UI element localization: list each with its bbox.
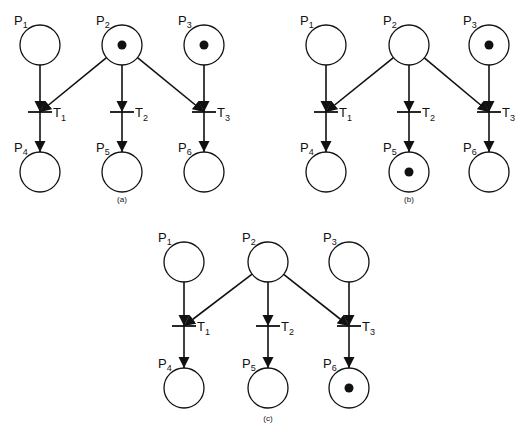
transition-label: T2 <box>281 319 294 337</box>
place-label: P1 <box>300 13 314 30</box>
place-label: P3 <box>463 13 477 30</box>
petri-net-diagram: T1T2T3P1P2P3P4P5P6(a)T1T2T3P1P2P3P4P5P6(… <box>0 0 527 431</box>
place-label: P5 <box>242 356 256 373</box>
transition-label: T3 <box>502 105 515 123</box>
panel-a: T1T2T3P1P2P3P4P5P6(a) <box>14 13 230 204</box>
place-p2 <box>389 25 429 65</box>
transition-label: T3 <box>362 319 375 337</box>
place-label: P6 <box>463 140 477 157</box>
place-p6 <box>184 152 224 192</box>
place-p6 <box>469 152 509 192</box>
panel-b: T1T2T3P1P2P3P4P5P6(b) <box>300 13 515 204</box>
place-label: P3 <box>178 13 192 30</box>
place-p1 <box>306 25 346 65</box>
arc-p2-t3 <box>137 58 204 112</box>
place-label: P1 <box>158 230 172 247</box>
place-label: P5 <box>96 140 110 157</box>
arc-p2-t3 <box>424 58 489 112</box>
transition-label: T1 <box>53 105 66 123</box>
place-label: P4 <box>158 356 172 373</box>
place-p1 <box>20 25 60 65</box>
token-icon <box>118 41 127 50</box>
panel-caption: (c) <box>263 414 273 423</box>
transition-label: T2 <box>422 105 435 123</box>
place-label: P2 <box>96 13 110 30</box>
token-icon <box>200 41 209 50</box>
arc-p2-t3 <box>284 274 349 326</box>
place-p2 <box>248 242 288 282</box>
token-icon <box>405 168 414 177</box>
place-p3 <box>329 242 369 282</box>
panel-caption: (b) <box>404 195 414 204</box>
place-label: P2 <box>242 230 256 247</box>
place-p5 <box>248 368 288 408</box>
panel-c: T1T2T3P1P2P3P4P5P6(c) <box>158 230 375 423</box>
transition-label: T1 <box>339 105 352 123</box>
place-p4 <box>306 152 346 192</box>
transition-label: T2 <box>135 105 148 123</box>
place-label: P6 <box>178 140 192 157</box>
token-icon <box>345 384 354 393</box>
arc-p2-t1 <box>326 58 393 112</box>
place-label: P5 <box>383 140 397 157</box>
panel-caption: (a) <box>117 195 127 204</box>
place-label: P3 <box>323 230 337 247</box>
place-label: P1 <box>14 13 28 30</box>
arc-p2-t1 <box>40 58 107 112</box>
place-label: P6 <box>323 356 337 373</box>
arc-p2-t1 <box>184 274 252 326</box>
place-p4 <box>164 368 204 408</box>
transition-label: T3 <box>217 105 230 123</box>
place-label: P2 <box>383 13 397 30</box>
token-icon <box>485 41 494 50</box>
place-label: P4 <box>300 140 314 157</box>
place-label: P4 <box>14 140 28 157</box>
place-p5 <box>102 152 142 192</box>
place-p1 <box>164 242 204 282</box>
transition-label: T1 <box>197 319 210 337</box>
place-p4 <box>20 152 60 192</box>
